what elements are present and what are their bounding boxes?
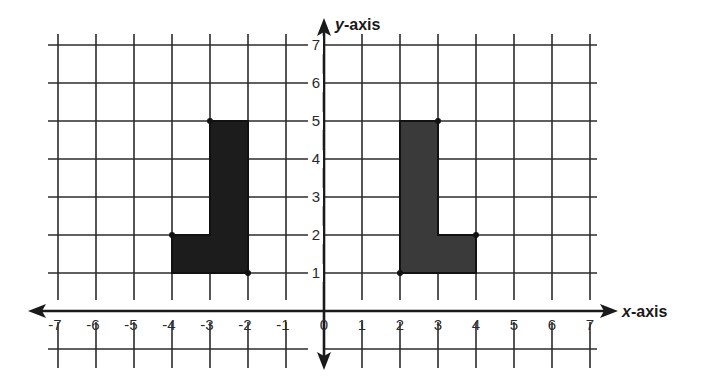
vertex-point bbox=[169, 232, 175, 238]
x-tick-label: 1 bbox=[358, 316, 366, 333]
x-tick-label: -6 bbox=[86, 316, 99, 333]
y-tick-label: 3 bbox=[312, 188, 320, 205]
y-tick-label: 5 bbox=[312, 112, 320, 129]
x-tick-label: 4 bbox=[472, 316, 480, 333]
vertex-point bbox=[473, 232, 479, 238]
x-tick-label: 6 bbox=[548, 316, 556, 333]
x-tick-label: -4 bbox=[162, 316, 175, 333]
y-tick-label: 7 bbox=[312, 36, 320, 53]
x-tick-label: -2 bbox=[238, 316, 251, 333]
x-tick-label: -3 bbox=[200, 316, 213, 333]
x-tick-label: -5 bbox=[124, 316, 137, 333]
tick-labels: -7-6-5-4-3-2-1012345671234567 bbox=[48, 36, 594, 333]
vertex-point bbox=[245, 270, 251, 276]
vertex-point bbox=[435, 118, 441, 124]
x-tick-label: -1 bbox=[276, 316, 289, 333]
y-axis-title: y-axis bbox=[334, 16, 380, 33]
x-tick-label: 0 bbox=[320, 316, 328, 333]
x-tick-label: 7 bbox=[586, 316, 594, 333]
x-tick-label: 5 bbox=[510, 316, 518, 333]
y-tick-label: 6 bbox=[312, 74, 320, 91]
coordinate-plane: -7-6-5-4-3-2-1012345671234567 y-axis x-a… bbox=[0, 0, 701, 390]
y-tick-label: 4 bbox=[312, 150, 320, 167]
y-tick-label: 1 bbox=[312, 264, 320, 281]
vertex-point bbox=[207, 118, 213, 124]
vertex-point bbox=[397, 270, 403, 276]
x-tick-label: 3 bbox=[434, 316, 442, 333]
x-tick-label: 2 bbox=[396, 316, 404, 333]
x-axis-title: x-axis bbox=[621, 303, 667, 320]
y-tick-label: 2 bbox=[312, 226, 320, 243]
x-tick-label: -7 bbox=[48, 316, 61, 333]
